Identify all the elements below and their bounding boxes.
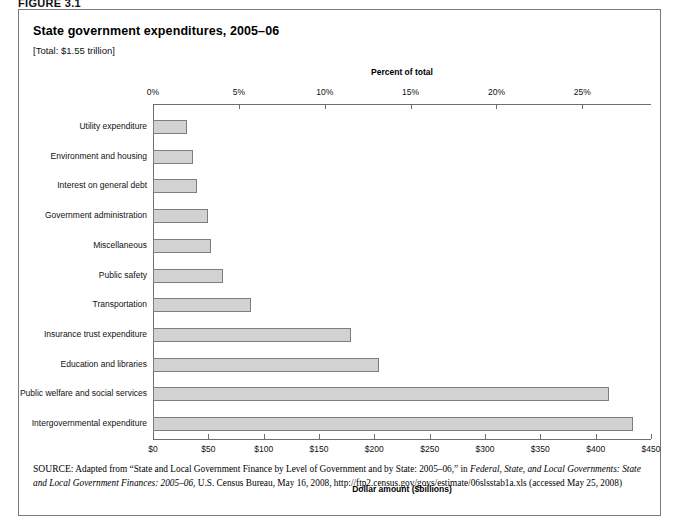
bottom-tick [153,434,154,439]
bottom-tick-label: $400 [586,444,605,454]
bar-row: Public welfare and social services [153,387,651,401]
bar [153,417,633,431]
bottom-tick [264,434,265,439]
bar [153,179,197,193]
bottom-tick-label: $0 [148,444,157,454]
source-text-1: Adapted from “State and Local Government… [74,464,471,474]
bar [153,239,211,253]
category-label: Utility expenditure [79,121,147,131]
category-label: Interest on general debt [57,180,147,190]
top-tick-label: 0% [147,87,159,97]
bottom-tick-label: $100 [254,444,273,454]
bar-row: Utility expenditure [153,120,651,134]
category-label: Transportation [93,299,148,309]
bottom-tick-label: $350 [531,444,550,454]
category-label: Public welfare and social services [20,388,147,398]
category-label: Public safety [99,270,147,280]
source-text-3: (accessed May 25, 2008) [529,478,622,488]
bottom-tick [374,434,375,439]
top-tick-label: 20% [488,87,505,97]
bottom-tick-label: $450 [642,444,661,454]
bottom-tick-label: $50 [201,444,215,454]
plot-area: 0%5%10%15%20%25% $0$50$100$150$200$250$3… [153,85,651,439]
top-axis-title: Percent of total [153,67,651,77]
chart-title: State government expenditures, 2005–06 [33,24,279,38]
top-tick-label: 25% [574,87,591,97]
source-note: SOURCE: Adapted from “State and Local Go… [33,462,650,490]
bottom-tick-label: $150 [310,444,329,454]
category-label: Environment and housing [51,151,147,161]
bar-row: Education and libraries [153,358,651,372]
chart-subtitle: [Total: $1.55 trillion] [33,45,115,56]
bottom-tick [430,434,431,439]
top-tick [582,104,583,109]
bottom-axis-line [153,439,651,440]
bar [153,150,193,164]
bar [153,358,379,372]
top-tick [325,104,326,109]
bottom-tick [208,434,209,439]
bar-row: Intergovernmental expenditure [153,417,651,431]
bar-row: Environment and housing [153,150,651,164]
top-tick [496,104,497,109]
top-tick [153,104,154,109]
bar-row: Miscellaneous [153,239,651,253]
bottom-tick [485,434,486,439]
bottom-tick [651,434,652,439]
source-label: SOURCE: [33,463,74,474]
category-label: Insurance trust expenditure [44,329,147,339]
top-tick-label: 5% [233,87,245,97]
category-label: Education and libraries [61,359,147,369]
bar-row: Transportation [153,298,651,312]
figure-container: State government expenditures, 2005–06 [… [18,9,661,516]
top-tick [239,104,240,109]
top-axis-line [153,104,651,105]
bar [153,387,609,401]
bar-row: Government administration [153,209,651,223]
bar [153,209,208,223]
bottom-tick [596,434,597,439]
category-label: Intergovernmental expenditure [32,418,147,428]
category-label: Government administration [45,210,147,220]
category-label: Miscellaneous [93,240,147,250]
bar [153,298,251,312]
bar [153,328,351,342]
source-italic-1: Federal, State, and Local Governments: [470,464,620,474]
bar-row: Insurance trust expenditure [153,328,651,342]
bar-row: Public safety [153,269,651,283]
bottom-tick-label: $300 [476,444,495,454]
figure-label: FIGURE 3.1 [18,0,81,9]
top-tick-label: 10% [316,87,333,97]
bottom-tick-label: $250 [420,444,439,454]
bottom-tick-label: $200 [365,444,384,454]
bar [153,269,223,283]
bar-row: Interest on general debt [153,179,651,193]
top-tick-label: 15% [402,87,419,97]
bottom-tick [319,434,320,439]
source-text-2: , U.S. Census Bureau, May 16, 2008, http… [193,478,527,488]
bar [153,120,187,134]
top-tick [411,104,412,109]
bottom-tick [540,434,541,439]
